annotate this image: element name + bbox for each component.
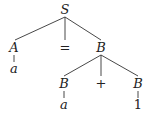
node-a: A	[8, 40, 18, 55]
edge-b-b-right	[101, 55, 138, 76]
leaf-a-lower: a	[60, 97, 68, 112]
leaf-one: 1	[134, 97, 142, 112]
edge-s-a	[15, 17, 65, 40]
node-b-right: B	[132, 76, 143, 91]
node-b: B	[95, 40, 106, 55]
node-b-left: B	[58, 76, 69, 91]
parse-tree-diagram: S A = B a B + B a 1	[0, 0, 149, 114]
tree-nodes: S A = B a B + B a 1	[8, 2, 142, 112]
edge-s-b	[65, 17, 101, 40]
node-equals: =	[60, 40, 71, 55]
leaf-a: a	[10, 61, 18, 76]
edge-b-b	[64, 55, 101, 76]
node-s: S	[61, 2, 70, 17]
node-plus: +	[96, 76, 107, 91]
tree-edges	[14, 17, 138, 98]
